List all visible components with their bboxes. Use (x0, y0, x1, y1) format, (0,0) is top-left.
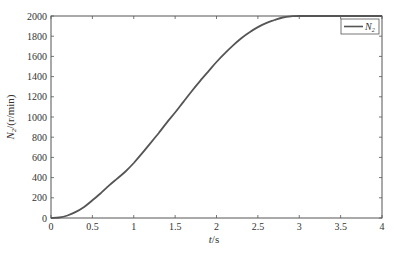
line-chart: 00.511.522.533.54 0200400600800100012001… (0, 0, 394, 256)
x-tick-label: 3.5 (334, 221, 347, 232)
x-tick-label: 0 (49, 221, 54, 232)
legend: N2 (341, 19, 379, 34)
y-tick-label: 200 (32, 192, 47, 203)
plot-area (51, 16, 382, 218)
y-tick-label: 0 (42, 213, 47, 224)
y-tick-label: 600 (32, 152, 47, 163)
y-tick-label: 1000 (27, 112, 47, 123)
y-tick-label: 1200 (27, 91, 47, 102)
y-tick-label: 800 (32, 132, 47, 143)
y-tick-label: 1600 (27, 51, 47, 62)
x-axis-label: t/s (209, 233, 219, 245)
y-axis-label: N2/(r/min) (4, 94, 18, 140)
x-tick-label: 4 (380, 221, 385, 232)
y-tick-label: 400 (32, 172, 47, 183)
y-tick-label: 2000 (27, 11, 47, 22)
x-tick-label: 2.5 (252, 221, 265, 232)
x-tick-label: 0.5 (86, 221, 99, 232)
x-tick-label: 1.5 (169, 221, 182, 232)
y-tick-label: 1800 (27, 31, 47, 42)
x-tick-label: 3 (297, 221, 302, 232)
y-tick-label: 1400 (27, 71, 47, 82)
x-tick-label: 1 (131, 221, 136, 232)
x-tick-label: 2 (214, 221, 219, 232)
